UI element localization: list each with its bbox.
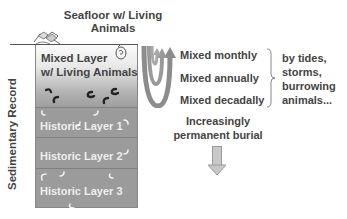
burial-label: Increasingly permanent burial bbox=[173, 114, 263, 142]
mixing-causes-line1: by tides, bbox=[282, 51, 336, 65]
mixed-layer-label-line2: w/ Living Animals bbox=[41, 65, 138, 79]
mixed-monthly-label: Mixed monthly bbox=[180, 49, 257, 61]
burial-label-line2: permanent burial bbox=[173, 128, 263, 142]
seafloor-title-line2: Animals bbox=[58, 22, 168, 35]
snail-icon bbox=[114, 44, 128, 60]
seafloor-title-line1: Seafloor w/ Living bbox=[58, 9, 168, 22]
mixing-causes-line2: storms, bbox=[282, 65, 336, 79]
fossil-shells-icon bbox=[36, 108, 137, 208]
burial-label-line1: Increasingly bbox=[173, 114, 263, 128]
mixing-causes-line3: burrowing bbox=[282, 79, 336, 93]
mixing-causes: by tides, storms, burrowing animals... bbox=[282, 51, 336, 107]
seafloor-title: Seafloor w/ Living Animals bbox=[58, 9, 168, 35]
mixing-causes-line4: animals... bbox=[282, 93, 336, 107]
brace-icon bbox=[266, 48, 276, 108]
mixing-cycle-arrows-icon bbox=[140, 44, 176, 108]
down-arrow-icon bbox=[207, 146, 227, 176]
sedimentary-record-label: Sedimentary Record bbox=[6, 78, 18, 190]
mixed-annually-label: Mixed annually bbox=[180, 72, 259, 84]
burrowing-animals-icon bbox=[36, 85, 137, 107]
mixed-decadally-label: Mixed decadally bbox=[180, 94, 264, 106]
